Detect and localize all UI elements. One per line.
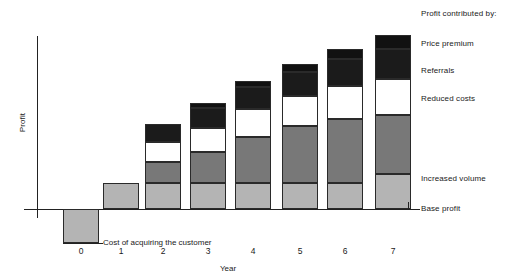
bar-segment-reduced-costs — [375, 79, 411, 115]
chart-canvas: Profit Year 01234567 Profit contributed … — [0, 0, 513, 280]
bar-segment-base-profit — [190, 183, 226, 209]
bar-segment-referrals — [282, 72, 318, 96]
x-tick-label-5: 5 — [285, 246, 315, 256]
legend-leader-line-base-profit — [408, 209, 420, 210]
x-tick-label-2: 2 — [148, 246, 178, 256]
bar-segment-base-profit — [235, 183, 271, 209]
bar-segment-base-profit — [375, 174, 411, 209]
bar-segment-base-profit — [282, 183, 318, 209]
legend-label-price-premium: Price premium — [421, 39, 474, 48]
legend-leader-tick-base-profit — [408, 202, 409, 210]
bar-segment-referrals — [375, 49, 411, 79]
legend-label-referrals: Referrals — [421, 66, 454, 75]
bar-segment-cost-of-acquiring-the-customer — [63, 209, 99, 243]
bar-segment-increased-volume — [235, 137, 271, 183]
bar-segment-referrals — [190, 108, 226, 128]
x-tick-label-7: 7 — [378, 246, 408, 256]
x-tick-label-0: 0 — [66, 246, 96, 256]
annotation-leader-line — [63, 243, 103, 244]
bar-segment-increased-volume — [375, 115, 411, 174]
bar-segment-base-profit — [327, 183, 363, 209]
bar-segment-price-premium — [327, 49, 363, 59]
bar-segment-increased-volume — [145, 162, 181, 183]
legend-label-profit-contributed-by: Profit contributed by: — [421, 9, 497, 18]
bar-segment-reduced-costs — [327, 86, 363, 119]
bar-segment-reduced-costs — [145, 142, 181, 162]
x-tick-label-1: 1 — [106, 246, 136, 256]
bar-segment-referrals — [327, 59, 363, 86]
bar-segment-referrals — [145, 124, 181, 142]
bar-segment-price-premium — [282, 64, 318, 72]
bar-segment-increased-volume — [282, 126, 318, 183]
bar-segment-reduced-costs — [190, 128, 226, 152]
y-axis-title: Profit — [18, 93, 27, 153]
x-axis-title: Year — [188, 264, 268, 273]
legend-label-base-profit: Base profit — [421, 204, 460, 213]
x-tick-label-4: 4 — [238, 246, 268, 256]
annotation-acquisition-cost: Cost of acquiring the customer — [103, 238, 212, 247]
x-tick-label-6: 6 — [330, 246, 360, 256]
bar-segment-price-premium — [375, 35, 411, 49]
y-axis-spine — [37, 36, 38, 218]
bar-segment-reduced-costs — [235, 109, 271, 137]
bar-segment-increased-volume — [190, 152, 226, 183]
bar-segment-base-profit — [145, 183, 181, 209]
bar-segment-referrals — [235, 87, 271, 109]
bar-segment-reduced-costs — [282, 96, 318, 126]
x-tick-label-3: 3 — [193, 246, 223, 256]
bar-segment-base-profit — [103, 183, 139, 209]
legend-label-reduced-costs: Reduced costs — [421, 94, 475, 103]
bar-segment-increased-volume — [327, 119, 363, 183]
legend-label-increased-volume: Increased volume — [421, 174, 486, 183]
